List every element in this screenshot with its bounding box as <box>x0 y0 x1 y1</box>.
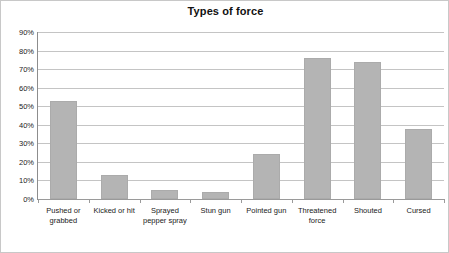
x-tick-mark <box>140 199 141 203</box>
x-tick-label: Pointed gun <box>241 206 292 216</box>
x-tick-mark <box>190 199 191 203</box>
x-tick-mark <box>241 199 242 203</box>
bar <box>50 101 77 199</box>
x-tick-label: Shouted <box>343 206 394 216</box>
x-tick-label: Kicked or hit <box>89 206 140 216</box>
y-tick-label: 10% <box>1 176 34 185</box>
chart-title: Types of force <box>1 5 449 17</box>
y-tick-label: 20% <box>1 158 34 167</box>
x-axis-tick-labels: Pushed or grabbedKicked or hitSprayed pe… <box>38 206 444 252</box>
bars-layer <box>38 32 444 199</box>
bar <box>151 190 178 199</box>
x-tick-mark <box>38 199 39 203</box>
bar <box>202 192 229 199</box>
y-tick-label: 40% <box>1 121 34 130</box>
y-tick-label: 70% <box>1 65 34 74</box>
x-tick-label: Sprayed pepper spray <box>140 206 191 225</box>
y-tick-label: 0% <box>1 195 34 204</box>
x-tick-mark <box>444 199 445 203</box>
x-tick-mark <box>343 199 344 203</box>
y-tick-label: 80% <box>1 47 34 56</box>
y-tick-label: 90% <box>1 28 34 37</box>
x-tick-mark <box>393 199 394 203</box>
x-tick-label: Cursed <box>393 206 444 216</box>
bar-chart-figure: Types of force 0%10%20%30%40%50%60%70%80… <box>0 0 449 253</box>
bar <box>354 62 381 199</box>
x-tick-mark <box>292 199 293 203</box>
bar <box>304 58 331 199</box>
x-tick-mark <box>89 199 90 203</box>
bar <box>253 154 280 199</box>
x-tick-label: Pushed or grabbed <box>38 206 89 225</box>
x-tick-label: Stun gun <box>190 206 241 216</box>
x-axis-ticks <box>38 199 444 203</box>
y-tick-label: 60% <box>1 84 34 93</box>
x-tick-label: Threatened force <box>292 206 343 225</box>
bar <box>405 129 432 200</box>
bar <box>101 175 128 199</box>
y-tick-label: 30% <box>1 139 34 148</box>
y-tick-label: 50% <box>1 102 34 111</box>
